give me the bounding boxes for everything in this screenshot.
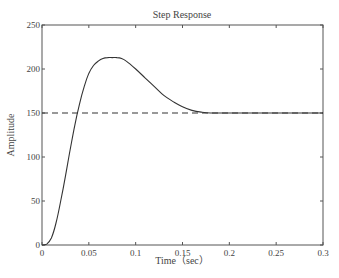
y-tick-label: 50 <box>31 196 41 206</box>
y-tick-label: 100 <box>27 152 41 162</box>
x-tick-label: 0.2 <box>224 248 235 258</box>
x-tick-label: 0 <box>40 248 45 258</box>
x-tick-label: 0.1 <box>130 248 141 258</box>
y-tick-label: 200 <box>27 64 41 74</box>
x-tick-label: 0.25 <box>268 248 284 258</box>
y-tick-label: 150 <box>27 108 41 118</box>
x-tick-label: 0.3 <box>317 248 329 258</box>
step-response-chart: Step Response 050100150200250 00.050.10.… <box>0 0 339 278</box>
y-axis-label: Amplitude <box>5 113 16 156</box>
y-axis: 050100150200250 <box>27 20 324 250</box>
plot-frame <box>42 25 323 245</box>
chart-title: Step Response <box>153 9 212 20</box>
y-tick-label: 250 <box>27 20 41 30</box>
x-axis: 00.050.10.150.20.250.3 <box>40 25 329 258</box>
plot-series <box>42 58 323 245</box>
x-tick-label: 0.05 <box>81 248 97 258</box>
x-axis-label: Time（sec） <box>155 255 209 266</box>
response-curve <box>42 58 323 245</box>
